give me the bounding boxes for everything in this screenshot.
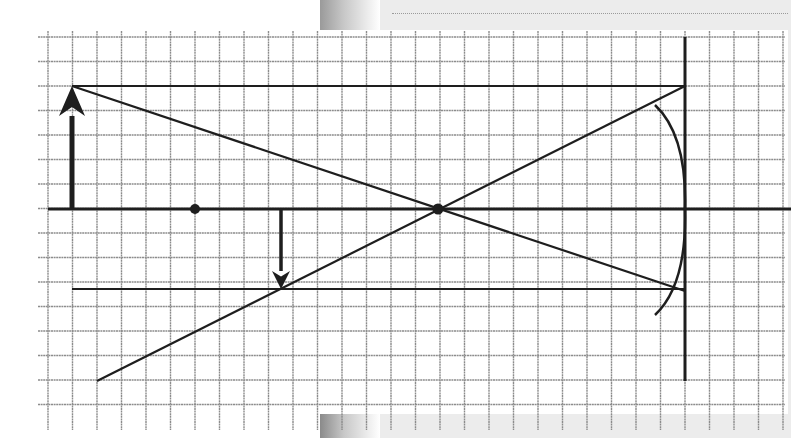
focal-point-dot: [190, 204, 200, 214]
ray-diagram: [0, 0, 791, 438]
center-of-curvature-dot: [433, 204, 444, 215]
